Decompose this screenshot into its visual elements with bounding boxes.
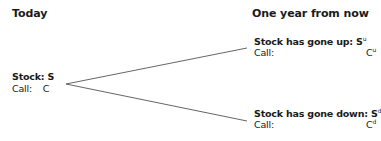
up-call-sup: u bbox=[372, 46, 376, 53]
down-call-row: Call: Cd bbox=[254, 119, 376, 130]
up-stock-row: Stock has gone up: Su bbox=[254, 36, 376, 47]
today-call-value: C bbox=[43, 83, 49, 94]
down-stock-row: Stock has gone down: Sd bbox=[254, 108, 376, 119]
up-call-label: Call: bbox=[254, 47, 274, 58]
up-stock-label: Stock has gone up: S bbox=[254, 36, 363, 47]
down-call-label: Call: bbox=[254, 119, 274, 130]
today-call-label: Call: bbox=[12, 83, 32, 94]
up-stock-sup: u bbox=[363, 35, 367, 42]
up-node: Stock has gone up: Su Call: Cu bbox=[254, 36, 376, 58]
down-call-sup: d bbox=[372, 118, 376, 125]
up-call-row: Call: Cu bbox=[254, 47, 376, 58]
down-stock-sup: d bbox=[378, 107, 381, 114]
down-branch-line bbox=[66, 84, 247, 121]
down-node: Stock has gone down: Sd Call: Cd bbox=[254, 108, 376, 130]
up-call-value-wrap: Cu bbox=[366, 47, 376, 58]
down-stock-label: Stock has gone down: S bbox=[254, 108, 378, 119]
up-branch-line bbox=[66, 48, 247, 84]
today-call-row: Call: C bbox=[12, 83, 54, 94]
today-stock-label: Stock: S bbox=[12, 71, 54, 82]
down-call-value-wrap: Cd bbox=[366, 119, 376, 130]
today-node: Stock: S Call: C bbox=[12, 71, 54, 94]
